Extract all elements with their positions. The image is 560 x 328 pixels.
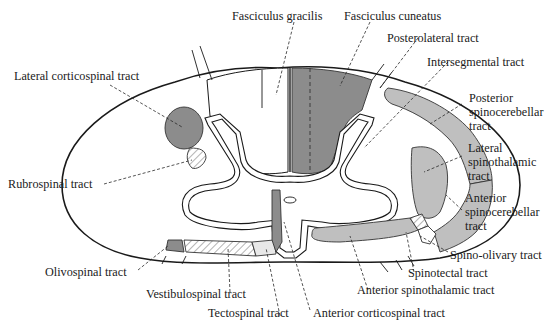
label-intersegmental-tract: Intersegmental tract [427, 55, 525, 69]
label-lateral-corticospinal-tract: Lateral corticospinal tract [14, 69, 140, 83]
label-spinotectal-tract: Spinotectal tract [408, 266, 488, 280]
label-spino-olivary-tract: Spino-olivary tract [450, 248, 542, 262]
label-anterior-spinothalamic-tract: Anterior spinothalamic tract [357, 283, 495, 297]
spinal-cord-diagram: Fasciculus gracilis Fasciculus cuneatus … [0, 0, 560, 328]
lateral-corticospinal-tract-region [165, 107, 203, 149]
label-anterior-spinocerebellar-1: Anterior [465, 191, 506, 205]
label-posterior-spinocerebellar-2: spinocerebellar [469, 105, 543, 119]
label-fasciculus-cuneatus: Fasciculus cuneatus [344, 9, 441, 23]
label-olivospinal-tract: Olivospinal tract [45, 265, 127, 279]
label-rubrospinal-tract: Rubrospinal tract [8, 177, 93, 191]
label-lateral-spinothalamic-1: Lateral [468, 141, 503, 155]
label-lateral-spinothalamic-3: tract [468, 169, 490, 183]
label-posterior-spinocerebellar-3: tract [469, 119, 491, 133]
olivospinal-tract-region [166, 240, 184, 252]
lateral-spinothalamic-tract-region [411, 147, 447, 218]
label-tectospinal-tract: Tectospinal tract [208, 306, 289, 320]
label-anterior-spinocerebellar-3: tract [465, 219, 487, 233]
label-fasciculus-gracilis: Fasciculus gracilis [232, 9, 323, 23]
label-posterior-spinocerebellar-1: Posterior [469, 91, 513, 105]
label-anterior-corticospinal-tract: Anterior corticospinal tract [313, 306, 446, 320]
label-vestibulospinal-tract: Vestibulospinal tract [146, 287, 246, 301]
label-anterior-spinocerebellar-2: spinocerebellar [465, 205, 539, 219]
label-posterolateral-tract: Posterolateral tract [387, 31, 479, 45]
anterior-corticospinal-tract-region [272, 190, 282, 252]
label-lateral-spinothalamic-2: spinothalamic [468, 155, 537, 169]
central-canal [284, 197, 296, 203]
